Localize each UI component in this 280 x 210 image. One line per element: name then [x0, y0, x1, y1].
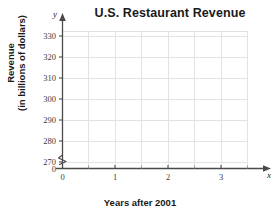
- gridline-vertical: [221, 31, 222, 167]
- y-axis-title: Revenue (in billions of dollars): [5, 3, 27, 123]
- chart-figure: U.S. Restaurant Revenue: [0, 0, 280, 210]
- y-axis-title-line2: (in billions of dollars): [16, 3, 27, 123]
- plot-area: [62, 31, 248, 167]
- x-tick-label: 1: [105, 172, 125, 182]
- x-axis-variable-label: x: [267, 170, 271, 180]
- x-tick-label: 2: [158, 172, 178, 182]
- y-tick-label: 310: [30, 73, 56, 83]
- x-axis-title: Years after 2001: [0, 197, 280, 208]
- x-tick-label: 0: [53, 172, 73, 182]
- y-axis-variable-label: y: [53, 9, 57, 19]
- y-tick-label: 280: [30, 136, 56, 146]
- gridline-vertical: [115, 31, 116, 167]
- gridline-vertical: [88, 31, 89, 167]
- gridline-vertical: [194, 31, 195, 167]
- gridline-vertical: [141, 31, 142, 167]
- y-tick-label: 330: [30, 31, 56, 41]
- y-axis-title-line1: Revenue: [5, 3, 16, 123]
- y-tick-label: 290: [30, 115, 56, 125]
- chart-title: U.S. Restaurant Revenue: [80, 6, 260, 20]
- y-tick-label: 320: [30, 52, 56, 62]
- y-tick-label: 300: [30, 94, 56, 104]
- x-tick-label: 3: [211, 172, 231, 182]
- gridline-vertical: [168, 31, 169, 167]
